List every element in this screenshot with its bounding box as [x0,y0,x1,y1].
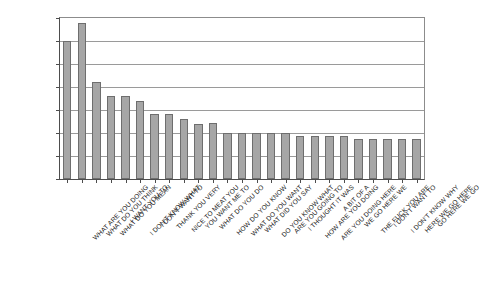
x-axis-tick [140,179,141,183]
bar [311,136,319,179]
bar [267,133,275,179]
x-axis-tick [358,179,359,183]
x-axis-tick [286,179,287,183]
bar [354,139,362,179]
x-axis-tick [242,179,243,183]
x-axis-tick [300,179,301,183]
bar [296,136,304,179]
bar [92,82,100,179]
x-axis-tick [169,179,170,183]
bar [412,139,420,179]
x-axis-label: GO HERE WE GO [436,184,480,228]
bar [209,123,217,179]
x-axis-tick [344,179,345,183]
x-axis-tick [67,179,68,183]
bar [238,133,246,179]
y-axis-tick [56,179,60,180]
x-axis-tick [271,179,272,183]
x-axis-tick [315,179,316,183]
x-axis-tick [111,179,112,183]
x-axis-tick [213,179,214,183]
bar [63,41,71,179]
x-axis-tick [155,179,156,183]
bar [165,114,173,179]
bar [325,136,333,179]
category-axis-labels: WHAT ARE YOU DOINGWHAT DO YOU THINKWHAT … [0,184,444,290]
bar [281,133,289,179]
x-axis-tick [227,179,228,183]
bar [121,96,129,179]
bar [107,96,115,179]
x-axis-tick [82,179,83,183]
x-axis-tick [96,179,97,183]
bar [398,139,406,179]
x-axis-tick [184,179,185,183]
x-axis-tick [388,179,389,183]
bar [150,114,158,179]
bar [136,101,144,179]
bar [194,124,202,179]
bar [383,139,391,179]
bar [369,139,377,179]
bar [180,119,188,179]
x-axis-tick [417,179,418,183]
bar [252,133,260,179]
bar [78,23,86,179]
bar [223,133,231,179]
bar [340,136,348,179]
x-axis-tick [126,179,127,183]
x-axis-tick [257,179,258,183]
bar-series [60,18,424,179]
